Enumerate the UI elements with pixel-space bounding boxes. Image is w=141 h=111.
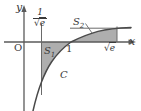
radical-group: √e [34,19,46,28]
fraction-denominator: √e [33,19,47,28]
region-s2-fill [71,28,117,42]
region-label-s1: S1 [44,46,55,59]
tick-label-inverse-sqrt-e: 1 √e [33,8,47,29]
region-label-s1-base: S [44,45,51,56]
radical-argument-right: e [109,42,116,53]
math-figure: y O x 1 √e 1 √e S1 S2 C [0,0,141,111]
region-label-s1-subscript: 1 [51,51,55,59]
region-label-s2-subscript: 2 [80,22,84,30]
region-label-s2: S2 [73,17,84,30]
radical-argument: e [39,17,46,28]
fraction-numerator: 1 [33,8,47,17]
tick-label-one: 1 [66,44,72,54]
x-axis-label: x [129,36,135,47]
y-axis-label: y [16,2,22,13]
curve-label-c: C [60,70,68,80]
radical-group-right: √e [104,44,116,53]
origin-label: O [14,43,22,53]
tick-label-sqrt-e: √e [104,44,116,53]
region-label-s2-base: S [73,16,80,27]
figure-canvas [0,0,141,111]
